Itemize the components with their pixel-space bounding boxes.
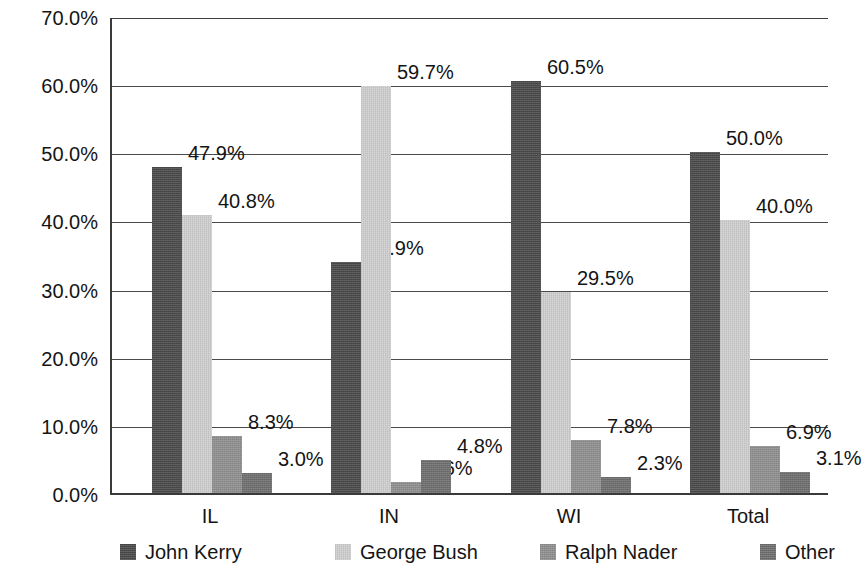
bar-group: 60.5%29.5%7.8%2.3% bbox=[511, 18, 631, 493]
legend-item[interactable]: Ralph Nader bbox=[540, 538, 677, 566]
legend-swatch-icon bbox=[120, 544, 136, 560]
bar[interactable] bbox=[212, 436, 242, 493]
bar-group: 33.9%59.7%1.6%4.8% bbox=[331, 18, 451, 493]
bar[interactable] bbox=[780, 472, 810, 493]
bar-value-label: 59.7% bbox=[397, 62, 454, 82]
legend-label: Ralph Nader bbox=[565, 541, 677, 563]
bar[interactable] bbox=[391, 482, 421, 493]
bar[interactable] bbox=[421, 460, 451, 493]
bar-group: 50.0%40.0%6.9%3.1% bbox=[690, 18, 810, 493]
bar-value-label: 3.1% bbox=[816, 448, 862, 468]
bar-value-label: 6.9% bbox=[786, 422, 832, 442]
x-category-label: IN bbox=[379, 505, 399, 527]
x-axis-category-labels: ILINWITotal bbox=[110, 505, 828, 531]
bar-groups: 47.9%40.8%8.3%3.0%33.9%59.7%1.6%4.8%60.5… bbox=[112, 18, 828, 493]
bar-value-label: 60.5% bbox=[547, 57, 604, 77]
legend-item[interactable]: Other bbox=[760, 538, 835, 566]
legend-swatch-icon bbox=[335, 544, 351, 560]
bar[interactable] bbox=[601, 477, 631, 493]
y-tick-label: 0.0% bbox=[0, 485, 98, 505]
y-tick-label: 20.0% bbox=[0, 349, 98, 369]
legend-item[interactable]: George Bush bbox=[335, 538, 478, 566]
bar[interactable] bbox=[571, 440, 601, 493]
legend-item[interactable]: John Kerry bbox=[120, 538, 242, 566]
y-tick-label: 50.0% bbox=[0, 144, 98, 164]
y-tick-label: 10.0% bbox=[0, 417, 98, 437]
bar-value-label: 3.0% bbox=[278, 449, 324, 469]
x-category-label: Total bbox=[727, 505, 769, 527]
bar[interactable] bbox=[331, 262, 361, 493]
bar-value-label: 29.5% bbox=[577, 268, 634, 288]
chart-legend: John KerryGeorge BushRalph NaderOther bbox=[110, 538, 828, 568]
plot-area: 47.9%40.8%8.3%3.0%33.9%59.7%1.6%4.8%60.5… bbox=[110, 18, 828, 495]
bar-value-label: 50.0% bbox=[726, 128, 783, 148]
legend-label: George Bush bbox=[360, 541, 478, 563]
legend-label: John Kerry bbox=[145, 541, 242, 563]
bar[interactable] bbox=[152, 167, 182, 493]
bar[interactable] bbox=[750, 446, 780, 493]
bar[interactable] bbox=[541, 292, 571, 493]
x-category-label: IL bbox=[202, 505, 219, 527]
bar[interactable] bbox=[242, 473, 272, 493]
bar-value-label: 47.9% bbox=[188, 143, 245, 163]
bar-value-label: 40.0% bbox=[756, 196, 813, 216]
x-category-label: WI bbox=[557, 505, 581, 527]
bar[interactable] bbox=[182, 215, 212, 493]
bar[interactable] bbox=[361, 86, 391, 493]
bar-value-label: 4.8% bbox=[457, 436, 503, 456]
bar-value-label: 8.3% bbox=[248, 412, 294, 432]
y-axis-tick-labels: 0.0%10.0%20.0%30.0%40.0%50.0%60.0%70.0% bbox=[0, 18, 104, 495]
bar[interactable] bbox=[720, 220, 750, 493]
y-tick-label: 40.0% bbox=[0, 212, 98, 232]
y-tick-label: 60.0% bbox=[0, 76, 98, 96]
legend-label: Other bbox=[785, 541, 835, 563]
bar-value-label: 40.8% bbox=[218, 191, 275, 211]
y-tick-label: 30.0% bbox=[0, 281, 98, 301]
legend-swatch-icon bbox=[760, 544, 776, 560]
y-tick-label: 70.0% bbox=[0, 8, 98, 28]
bar-group: 47.9%40.8%8.3%3.0% bbox=[152, 18, 272, 493]
bar-value-label: 7.8% bbox=[607, 416, 653, 436]
legend-swatch-icon bbox=[540, 544, 556, 560]
bar[interactable] bbox=[511, 81, 541, 493]
bar[interactable] bbox=[690, 152, 720, 493]
bar-value-label: 2.3% bbox=[637, 453, 683, 473]
